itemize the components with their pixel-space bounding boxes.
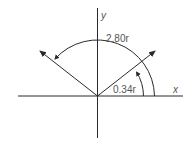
x-axis-label: x <box>172 84 179 95</box>
small-angle-arc <box>137 72 144 96</box>
small-angle-label: 0.34r <box>113 84 136 95</box>
large-angle-arc <box>55 40 155 96</box>
large-angle-label: 2.80r <box>106 33 129 44</box>
vector-arrow-left <box>40 51 98 96</box>
angle-diagram: y x 2.80r 0.34r <box>0 0 195 153</box>
y-axis-label: y <box>100 10 107 21</box>
